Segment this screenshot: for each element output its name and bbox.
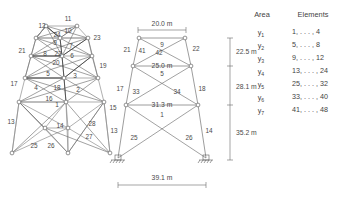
element-label: 15 (109, 104, 117, 111)
pinned-support (110, 155, 213, 163)
element-label: 25 (30, 142, 38, 149)
element-label: 17 (116, 85, 124, 92)
element-label: 11 (65, 15, 72, 22)
element-label: 21 (123, 46, 131, 53)
legend-area-index: 1 (261, 32, 264, 38)
2d-elevation-truss-view: 20.0 m (110, 20, 257, 188)
legend-table: Area Elements y1 1, . . . , 4 y2 5, . . … (254, 10, 329, 116)
element-label: 12 (38, 22, 46, 29)
element-label: 1 (55, 101, 59, 108)
element-label: 25 (130, 134, 138, 141)
element-label: 23 (93, 34, 101, 41)
legend-header-area: Area (254, 10, 271, 19)
element-label: 21 (18, 47, 26, 54)
element-label: 6 (70, 52, 74, 59)
svg-text:y1: y1 (258, 28, 265, 38)
legend-elements-value: 13, . . . , 24 (292, 66, 328, 75)
legend-area-index: 7 (261, 110, 264, 116)
legend-area-index: 3 (261, 58, 264, 64)
element-label: 5 (160, 70, 164, 77)
element-label: 22 (54, 50, 62, 57)
svg-text:y3: y3 (258, 54, 265, 64)
legend-area-index: 2 (261, 45, 264, 51)
dimension-label-height-3: 35.2 m (236, 129, 257, 136)
legend-area-index: 4 (261, 71, 264, 77)
legend-elements-value: 9, . . . , 12 (292, 53, 324, 62)
dimension-label-top-width: 20.0 m (152, 20, 173, 27)
element-label: 27 (85, 133, 93, 140)
element-label: 33 (132, 88, 140, 95)
element-label: 28 (88, 120, 96, 127)
legend-area-index: 6 (261, 97, 264, 103)
element-label: 4 (34, 84, 38, 91)
legend-area-index: 5 (261, 84, 264, 90)
svg-text:y6: y6 (258, 93, 265, 103)
element-label: 20 (52, 59, 60, 66)
element-label: 24 (53, 31, 61, 38)
dimension-label-height-2: 28.1 m (236, 83, 257, 90)
dimension-line-heights (227, 38, 233, 160)
element-label: 2 (76, 86, 80, 93)
element-label: 16 (45, 95, 53, 102)
legend-elements-value: 1, . . . , 4 (292, 27, 320, 36)
svg-text:y7: y7 (258, 106, 265, 116)
svg-text:y4: y4 (258, 67, 265, 77)
element-label: 8 (43, 50, 47, 57)
legend-row: y2 5, . . . , 8 (258, 40, 320, 51)
element-label: 18 (53, 84, 61, 91)
element-label: 22 (192, 45, 200, 52)
3d-perspective-truss-view: 11 12 10 24 23 9 7 21 8 22 6 20 19 5 3 1… (7, 15, 117, 155)
dimension-label-upper-middle-width: 25.0 m (152, 62, 173, 69)
dimension-label-base-width: 39.1 m (152, 174, 173, 181)
legend-header-elements: Elements (298, 10, 329, 19)
element-label: 10 (64, 27, 72, 34)
svg-text:y5: y5 (258, 80, 265, 90)
dimension-line-base-width (118, 182, 206, 188)
dimension-line-top-width (138, 27, 186, 33)
legend-row: y5 25, . . . , 32 (258, 79, 328, 90)
element-label: 17 (10, 80, 18, 87)
element-label: 14 (205, 127, 213, 134)
element-label: 7 (69, 42, 73, 49)
truss-figure: 11 12 10 24 23 9 7 21 8 22 6 20 19 5 3 1… (0, 0, 344, 210)
dimension-label-lower-middle-width: 31.3 m (152, 101, 173, 108)
element-label: 41 (138, 47, 146, 54)
element-label: 14 (56, 122, 64, 129)
legend-elements-value: 33, . . . , 40 (292, 92, 328, 101)
element-label: 26 (185, 134, 193, 141)
element-label: 18 (198, 85, 206, 92)
element-label: 34 (173, 88, 181, 95)
element-label: 19 (99, 62, 107, 69)
element-label: 9 (160, 41, 164, 48)
legend-elements-value: 41, . . . , 48 (292, 105, 328, 114)
legend-row: y4 13, . . . , 24 (258, 66, 328, 77)
element-label: 9 (53, 39, 57, 46)
legend-elements-value: 5, . . . , 8 (292, 40, 320, 49)
legend-row: y1 1, . . . , 4 (258, 27, 320, 38)
element-label: 1 (160, 111, 164, 118)
element-label: 3 (73, 72, 77, 79)
element-label: 13 (110, 127, 118, 134)
legend-row: y3 9, . . . , 12 (258, 53, 324, 64)
legend-row: y6 33, . . . , 40 (258, 92, 328, 103)
dimension-label-height-1: 22.5 m (236, 48, 257, 55)
element-label: 5 (46, 70, 50, 77)
element-label: 26 (47, 142, 55, 149)
element-label: 42 (155, 49, 163, 56)
legend-elements-value: 25, . . . , 32 (292, 79, 328, 88)
svg-text:y2: y2 (258, 41, 265, 51)
legend-row: y7 41, . . . , 48 (258, 105, 328, 116)
element-label: 13 (7, 118, 15, 125)
